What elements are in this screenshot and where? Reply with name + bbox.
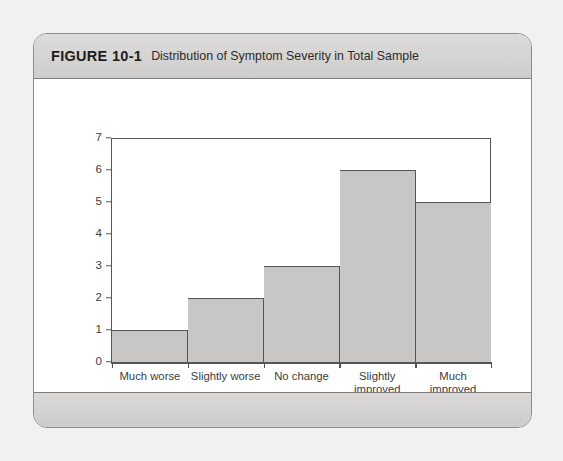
y-axis-tick-label: 2 xyxy=(96,292,102,304)
y-axis-tick-label: 0 xyxy=(96,356,102,368)
figure-box: FIGURE 10-1 Distribution of Symptom Seve… xyxy=(33,33,532,428)
y-axis-tick: 4 xyxy=(96,228,111,240)
chart-canvas: Number of Participants 01234567 Much wor… xyxy=(34,79,531,393)
x-axis-tick-mark xyxy=(188,363,189,368)
bar xyxy=(188,298,264,362)
y-axis-tick-label: 5 xyxy=(96,196,102,208)
x-axis-tick-mark xyxy=(491,363,492,368)
figure-caption: Distribution of Symptom Severity in Tota… xyxy=(151,49,419,63)
bar xyxy=(112,330,188,362)
bar xyxy=(416,202,491,362)
x-axis-tick-mark xyxy=(112,363,113,368)
bar xyxy=(264,266,340,362)
y-axis-tick: 0 xyxy=(96,356,111,368)
y-axis-tick: 5 xyxy=(96,196,111,208)
y-axis-ticks: 01234567 xyxy=(34,138,111,362)
bar xyxy=(340,170,416,362)
x-axis-tick-mark xyxy=(264,363,265,368)
x-axis-tick-mark xyxy=(415,363,416,368)
y-axis-tick: 1 xyxy=(96,324,111,336)
figure-footer-band xyxy=(34,392,531,427)
figure-number-label: FIGURE 10-1 xyxy=(51,48,142,64)
y-axis-tick: 2 xyxy=(96,292,111,304)
y-axis-tick-label: 4 xyxy=(96,228,102,240)
y-axis-tick-label: 3 xyxy=(96,260,102,272)
figure-header-band: FIGURE 10-1 Distribution of Symptom Seve… xyxy=(34,34,531,79)
bar-series xyxy=(112,138,491,362)
y-axis-tick-label: 6 xyxy=(96,164,102,176)
x-axis-ticks xyxy=(111,363,492,369)
y-axis-tick: 6 xyxy=(96,164,111,176)
x-axis-tick-mark xyxy=(339,363,340,368)
y-axis-tick-label: 1 xyxy=(96,324,102,336)
y-axis-tick: 7 xyxy=(96,132,111,144)
y-axis-tick-label: 7 xyxy=(96,132,102,144)
y-axis-tick: 3 xyxy=(96,260,111,272)
